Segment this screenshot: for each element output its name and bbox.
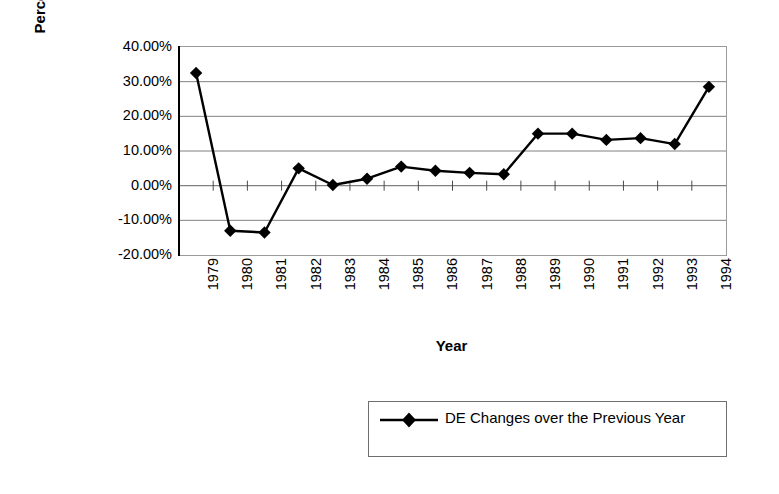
y-axis-tick-label: 0.00% xyxy=(76,178,172,192)
x-axis-tick-label: 1982 xyxy=(307,258,325,328)
x-axis-tick-label: 1988 xyxy=(512,258,530,328)
y-axis-title: Percentage xyxy=(26,0,54,88)
x-axis-tick-label: 1983 xyxy=(341,258,359,328)
legend: DE Changes over the Previous Year xyxy=(368,401,727,457)
plot-area xyxy=(178,46,727,256)
x-axis-tick-label: 1987 xyxy=(478,258,496,328)
y-axis-tick-labels: 40.00%30.00%20.00%10.00%0.00%-10.00%-20.… xyxy=(72,0,172,300)
x-axis-tick-label: 1990 xyxy=(580,258,598,328)
x-axis-tick-label: 1979 xyxy=(204,258,222,328)
line-chart: Percentage 40.00%30.00%20.00%10.00%0.00%… xyxy=(0,0,779,494)
data-point-marker xyxy=(361,173,373,185)
x-axis-tick-label: 1985 xyxy=(409,258,427,328)
x-axis-tick-label: 1981 xyxy=(272,258,290,328)
plot-svg xyxy=(179,47,726,255)
y-axis-tick-label: -10.00% xyxy=(76,212,172,226)
data-point-marker xyxy=(190,67,202,79)
x-axis-tick-label: 1984 xyxy=(375,258,393,328)
x-axis-tick-label: 1986 xyxy=(443,258,461,328)
series-de-changes xyxy=(190,67,715,239)
data-point-marker xyxy=(395,160,407,172)
data-point-marker xyxy=(258,226,270,238)
y-axis-spine xyxy=(178,46,180,256)
legend-diamond-line-marker-icon xyxy=(378,411,440,429)
data-point-marker xyxy=(327,179,339,191)
legend-item-label: DE Changes over the Previous Year xyxy=(445,407,717,429)
x-axis-tick-label: 1991 xyxy=(614,258,632,328)
y-axis-tick-label: 30.00% xyxy=(76,74,172,88)
data-point-marker xyxy=(292,162,304,174)
legend-item: DE Changes over the Previous Year xyxy=(369,402,726,456)
y-axis-tick-label: 10.00% xyxy=(76,143,172,157)
x-axis-tick-label: 1993 xyxy=(683,258,701,328)
data-point-marker xyxy=(224,225,236,237)
x-axis-tick-label: 1989 xyxy=(546,258,564,328)
series-line xyxy=(196,73,709,232)
data-point-marker xyxy=(429,165,441,177)
data-point-marker xyxy=(463,167,475,179)
gridlines xyxy=(179,82,726,221)
data-point-marker xyxy=(566,127,578,139)
data-point-marker xyxy=(669,138,681,150)
y-axis-tick-label: -20.00% xyxy=(76,247,172,261)
y-axis-tick-label: 40.00% xyxy=(76,39,172,53)
x-axis-tick-labels: 1979198019811982198319841985198619871988… xyxy=(178,258,725,328)
data-point-marker xyxy=(634,132,646,144)
x-axis-tick-label: 1992 xyxy=(649,258,667,328)
data-point-marker xyxy=(703,81,715,93)
data-point-marker xyxy=(600,134,612,146)
x-axis-tick-label: 1980 xyxy=(238,258,256,328)
x-axis-title: Year xyxy=(178,337,725,354)
x-axis-tick-label: 1994 xyxy=(717,258,735,328)
y-axis-tick-label: 20.00% xyxy=(76,108,172,122)
